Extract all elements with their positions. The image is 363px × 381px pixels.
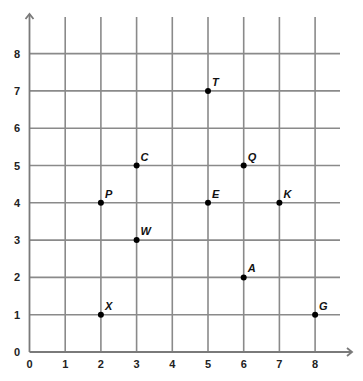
y-tick-label: 4 bbox=[14, 197, 21, 209]
point-marker bbox=[98, 200, 104, 206]
x-tick-label: 8 bbox=[312, 358, 318, 370]
point-marker bbox=[134, 163, 140, 169]
point-label: P bbox=[105, 188, 113, 200]
y-tick-label: 3 bbox=[14, 234, 20, 246]
x-tick-label: 2 bbox=[98, 358, 104, 370]
y-tick-label: 8 bbox=[14, 48, 20, 60]
point-label: T bbox=[212, 76, 220, 88]
point-marker bbox=[134, 237, 140, 243]
coordinate-grid-chart: 012345678 012345678 TCQPEKWAXG bbox=[0, 0, 363, 381]
grid-lines bbox=[30, 17, 341, 352]
y-tick-label: 7 bbox=[14, 85, 20, 97]
y-tick-label: 1 bbox=[14, 309, 20, 321]
y-tick-label: 2 bbox=[14, 271, 20, 283]
x-tick-label: 7 bbox=[276, 358, 282, 370]
y-tick-label: 6 bbox=[14, 122, 20, 134]
point-label: Q bbox=[248, 151, 257, 163]
point-marker bbox=[205, 200, 211, 206]
x-axis-tick-labels: 012345678 bbox=[26, 358, 318, 370]
point-marker bbox=[98, 312, 104, 318]
point-marker bbox=[312, 312, 318, 318]
point-label: G bbox=[319, 300, 328, 312]
x-tick-label: 5 bbox=[205, 358, 211, 370]
y-tick-label: 5 bbox=[14, 160, 20, 172]
x-tick-label: 6 bbox=[241, 358, 247, 370]
point-label: C bbox=[141, 151, 150, 163]
point-label: K bbox=[283, 188, 292, 200]
x-tick-label: 1 bbox=[62, 358, 68, 370]
point-marker bbox=[241, 163, 247, 169]
x-tick-label: 3 bbox=[134, 358, 140, 370]
data-points: TCQPEKWAXG bbox=[98, 76, 328, 318]
y-axis-tick-labels: 012345678 bbox=[14, 48, 21, 358]
point-marker bbox=[205, 88, 211, 94]
y-tick-label: 0 bbox=[14, 346, 20, 358]
point-label: A bbox=[247, 262, 256, 274]
point-label: E bbox=[212, 188, 220, 200]
x-tick-label: 0 bbox=[26, 358, 32, 370]
x-tick-label: 4 bbox=[169, 358, 176, 370]
point-label: X bbox=[104, 300, 113, 312]
point-marker bbox=[241, 274, 247, 280]
point-marker bbox=[276, 200, 282, 206]
axes bbox=[26, 14, 353, 356]
point-label: W bbox=[141, 225, 153, 237]
